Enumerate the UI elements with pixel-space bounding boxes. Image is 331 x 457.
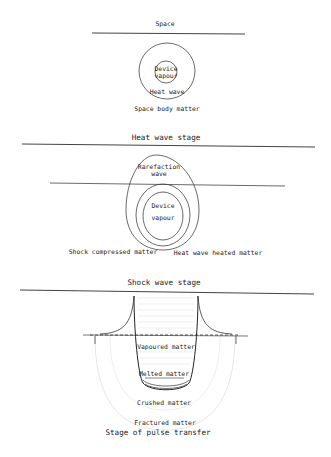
plume-hatching — [138, 298, 194, 364]
stage-heat-wave: Heat wave stage Rarefaction wave Device … — [22, 133, 315, 257]
space-label: Space — [155, 20, 174, 28]
surface-line — [22, 144, 315, 147]
wave-label: wave — [151, 170, 167, 178]
surface-line — [20, 290, 314, 294]
shock-compressed-label: Shock compressed matter — [69, 248, 158, 256]
stage-shock-wave: Shock wave stage Vapoured — [20, 278, 314, 437]
vapour-label: vapour — [151, 214, 174, 222]
crushed-matter-label: Crushed matter — [137, 399, 191, 407]
right-ejecta-curve — [198, 296, 232, 334]
heat-wave-label: Heat wave — [150, 88, 185, 96]
pulse-diagram: Space Device vapour Heat wave Space body… — [0, 0, 331, 457]
melted-matter-label: Melted matter — [139, 370, 189, 378]
stage-space: Space Device vapour Heat wave Space body… — [92, 20, 245, 113]
melt-layer-inner — [143, 380, 189, 386]
surface-line — [92, 33, 245, 34]
shock-wave-stage-title: Shock wave stage — [127, 278, 201, 287]
vapour-label: vapour — [154, 72, 177, 80]
vapoured-matter-label: Vapoured matter — [137, 343, 195, 351]
device-label: Device — [151, 202, 174, 210]
stage-caption: Stage of pulse transfer — [105, 428, 211, 437]
fractured-matter-label: Fractured matter — [134, 419, 196, 427]
space-body-matter-label: Space body matter — [134, 105, 200, 113]
heat-wave-stage-title: Heat wave stage — [132, 133, 201, 142]
left-ejecta-curve — [100, 296, 134, 334]
heat-wave-heated-label: Heat wave heated matter — [174, 249, 263, 257]
